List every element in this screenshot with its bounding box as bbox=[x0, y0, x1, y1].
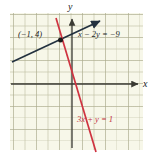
line-navy-x-minus-2y bbox=[12, 21, 100, 62]
graph-figure: y x (−1, 4) x − 2y = −9 3x + y = 1 bbox=[0, 0, 153, 158]
graph-vectors bbox=[0, 0, 153, 158]
intersection-point-label: (−1, 4) bbox=[18, 30, 42, 39]
equation-label-navy: x − 2y = −9 bbox=[78, 30, 120, 39]
x-axis-label: x bbox=[143, 79, 147, 89]
y-axis-label: y bbox=[68, 2, 72, 12]
equation-label-red: 3x + y = 1 bbox=[77, 115, 113, 124]
intersection-point-marker bbox=[58, 38, 63, 43]
